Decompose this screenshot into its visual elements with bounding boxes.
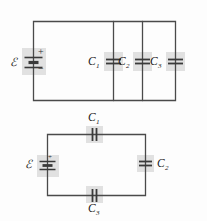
capacitor-label-c1-bottom: C1 bbox=[88, 112, 99, 124]
capacitor-c2-subscript-top: 2 bbox=[126, 62, 130, 70]
series-circuit-wires bbox=[48, 135, 146, 196]
capacitor-label-c3-top: C3 bbox=[150, 56, 161, 68]
capacitor-c3-subscript-bottom: 3 bbox=[96, 209, 100, 217]
capacitor-c3-subscript-top: 3 bbox=[158, 62, 162, 70]
emf-label-bottom: ℰ bbox=[25, 159, 32, 171]
capacitor-c3-name-top: C bbox=[150, 55, 158, 67]
emf-label-top: ℰ bbox=[10, 57, 17, 69]
emf-plus-sign-bottom: + bbox=[48, 154, 52, 161]
capacitor-c1-subscript-top: 1 bbox=[96, 62, 100, 70]
capacitor-label-c2-top: C2 bbox=[118, 56, 129, 68]
capacitor-label-c1-top: C1 bbox=[88, 56, 99, 68]
capacitor-label-c2-bottom: C2 bbox=[157, 158, 168, 170]
emf-minus-sign-top: − bbox=[38, 64, 44, 74]
capacitor-c2-subscript-bottom: 2 bbox=[165, 164, 169, 172]
capacitor-label-c3-bottom: C3 bbox=[88, 203, 99, 215]
circuit-schematic-svg bbox=[0, 0, 207, 221]
capacitor-c2-name-top: C bbox=[118, 55, 126, 67]
emf-plus-sign-top: + bbox=[38, 47, 44, 57]
capacitor-c1-name-top: C bbox=[88, 55, 96, 67]
circuit-figure: ℰ + − C1 C2 C3 ℰ + − C1 C2 C3 bbox=[0, 0, 207, 221]
capacitor-c1-name-bottom: C bbox=[88, 111, 96, 123]
capacitor-c1-subscript-bottom: 1 bbox=[96, 118, 100, 126]
emf-minus-sign-bottom: − bbox=[48, 167, 52, 174]
capacitor-c2-name-bottom: C bbox=[157, 157, 165, 169]
capacitor-c3-name-bottom: C bbox=[88, 202, 96, 214]
